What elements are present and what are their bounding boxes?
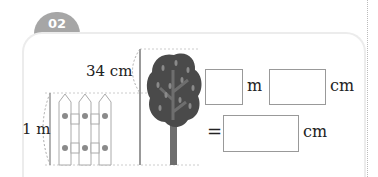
tree-icon bbox=[147, 53, 202, 165]
unit-m-label: m bbox=[247, 76, 262, 95]
unit-cm-label-2: cm bbox=[303, 122, 327, 141]
answer-meters-input[interactable] bbox=[205, 69, 243, 105]
tree-height-label: 34 cm bbox=[86, 62, 132, 80]
unit-cm-label-1: cm bbox=[330, 76, 354, 95]
tree-brace-icon bbox=[133, 49, 141, 93]
fence-icon bbox=[59, 94, 111, 165]
fence-height-label: 1 m bbox=[22, 120, 51, 138]
equals-sign: = bbox=[207, 121, 222, 142]
answer-centimeters-input[interactable] bbox=[269, 69, 326, 105]
answer-total-cm-input[interactable] bbox=[223, 115, 299, 152]
